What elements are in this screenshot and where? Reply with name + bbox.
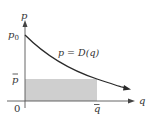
x-axis-arrow-icon [128, 99, 135, 104]
y-axis-arrow-icon [23, 20, 28, 27]
curve-arrow-icon [123, 85, 131, 91]
origin-label: 0 [14, 103, 20, 114]
curve-equation-label: p = D(q) [58, 47, 99, 58]
x-axis-label: q [139, 95, 145, 106]
p-bar-label: p [12, 74, 19, 85]
p0-label: p0 [8, 29, 19, 42]
y-axis-label: p [21, 10, 28, 21]
demand-curve-diagram: p p0 p = D(q) p 0 q q [0, 0, 151, 120]
shaded-revenue-rectangle [25, 79, 97, 101]
